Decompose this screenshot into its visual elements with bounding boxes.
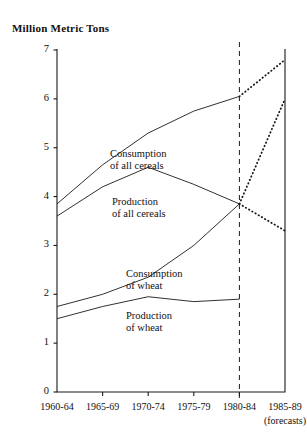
y-tick-label: 5: [27, 141, 49, 152]
series-annotation-line1: Consumption: [110, 148, 167, 160]
series-annotation-line2: of all cereals: [110, 160, 167, 172]
chart-container: Million Metric Tons 01234567 1960-641965…: [0, 0, 307, 439]
y-tick-label: 1: [27, 336, 49, 347]
y-tick-label: 4: [27, 190, 49, 201]
series-annotation: Productionof all cereals: [112, 196, 166, 220]
series-line: [239, 204, 285, 231]
series-annotation-line2: of wheat: [126, 280, 183, 292]
series-annotation-line1: Production: [112, 196, 166, 208]
series-annotation: Productionof wheat: [126, 310, 172, 334]
series-annotation-line1: Production: [126, 310, 172, 322]
y-tick-label: 2: [27, 287, 49, 298]
y-tick-label: 0: [27, 385, 49, 396]
series-annotation-line2: of wheat: [126, 322, 172, 334]
x-tick-label: 1985-89: [253, 401, 307, 412]
series-annotation: Consumptionof wheat: [126, 268, 183, 292]
chart-axes: [54, 42, 286, 400]
y-tick-label: 3: [27, 238, 49, 249]
axis-frame: [57, 49, 285, 392]
forecast-note: (forecasts): [253, 415, 307, 426]
series-annotation-line1: Consumption: [126, 268, 183, 280]
y-tick-label: 6: [27, 92, 49, 103]
y-tick-label: 7: [27, 43, 49, 54]
series-annotation-line2: of all cereals: [112, 208, 166, 220]
series-line: [239, 60, 285, 97]
series-annotation: Consumptionof all cereals: [110, 148, 167, 172]
series-line: [239, 99, 285, 204]
